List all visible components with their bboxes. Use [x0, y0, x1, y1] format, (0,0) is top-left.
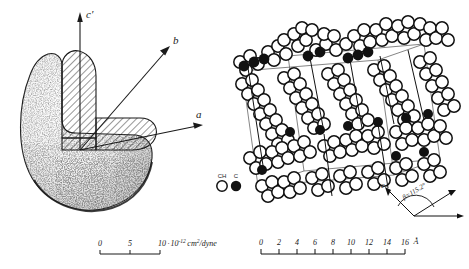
unit-mantissa: 10 [158, 239, 166, 248]
elastic-compliance-panel: c′ b a 0 5 10·1 [0, 0, 235, 269]
figure-root: c′ b a 0 5 10·1 [0, 0, 469, 269]
atom-legend: CH C [217, 173, 241, 191]
legend-label-c: C [234, 173, 239, 179]
unit-exponent: -12 [179, 238, 187, 244]
c-prime-axis-label: c′ [86, 8, 94, 20]
chain-upper-2 [348, 16, 454, 52]
baseline-arrowhead [457, 214, 464, 219]
carbon-atom [249, 57, 260, 68]
angstrom-label-8: 8 [331, 238, 335, 247]
compliance-scale-bar: 0 5 10·10-12cm2/dyne [98, 238, 217, 254]
b-axis-label: b [173, 34, 179, 46]
carbon-atom [353, 50, 364, 61]
unit-base: 10 [171, 239, 179, 248]
carbon-atom [423, 109, 433, 119]
carbon-atom [285, 127, 295, 137]
angstrom-label-16: 16 [401, 238, 409, 247]
c-axis-label: c [381, 181, 385, 190]
molecule-cluster-group [234, 16, 460, 202]
carbon-atom [343, 53, 354, 64]
angstrom-label-14: 14 [383, 238, 391, 247]
a-axis-label: a [196, 108, 202, 120]
a-arrowhead [193, 123, 203, 129]
unit-tail: /dyne [198, 239, 217, 248]
unit-rest: cm [187, 239, 197, 248]
beta-angle-annotation: c β=115.2° [381, 181, 464, 219]
legend-filled-circle-icon [231, 181, 241, 191]
carbon-atom [257, 165, 267, 175]
legend-open-circle-icon [217, 181, 227, 191]
carbon-atom [259, 54, 270, 65]
angstrom-label-4: 4 [295, 238, 299, 247]
carbon-atom [419, 147, 429, 157]
carbon-atom [363, 47, 374, 58]
chain-lower-1 [244, 136, 316, 174]
legend-label-ch: CH [218, 173, 227, 179]
c-prime-arrowhead [77, 12, 83, 22]
carbon-atom [315, 47, 326, 58]
angstrom-scale-bar: 0 2 4 6 8 10 12 14 16 Å [259, 237, 419, 254]
angstrom-label-0: 0 [259, 238, 263, 247]
scale-label-5: 5 [128, 239, 132, 248]
angstrom-label-12: 12 [365, 238, 373, 247]
crystal-packing-drawing: CH C c β=115. [228, 0, 469, 269]
carbon-atom [303, 51, 314, 62]
oblique-axis-arrowhead [448, 190, 456, 196]
b-arrowhead [160, 46, 170, 56]
scale-unit-expression: 10·10-12cm2/dyne [158, 238, 217, 248]
crystal-packing-panel: CH C c β=115. [228, 0, 469, 269]
angstrom-label-2: 2 [277, 238, 281, 247]
compliance-body-drawing: c′ b a 0 5 10·1 [0, 0, 235, 269]
angstrom-unit-label: Å [413, 237, 419, 246]
compliance-surface-body [10, 45, 170, 225]
c-axis-arrowhead [385, 187, 391, 196]
carbon-atom [391, 151, 401, 161]
angstrom-label-6: 6 [313, 238, 317, 247]
carbon-atom [401, 113, 411, 123]
carbon-atom [343, 121, 353, 131]
unit-separator: · [168, 239, 170, 248]
scale-label-0: 0 [98, 239, 102, 248]
angstrom-label-10: 10 [347, 238, 355, 247]
cutaway-vertical-limb [62, 51, 96, 138]
